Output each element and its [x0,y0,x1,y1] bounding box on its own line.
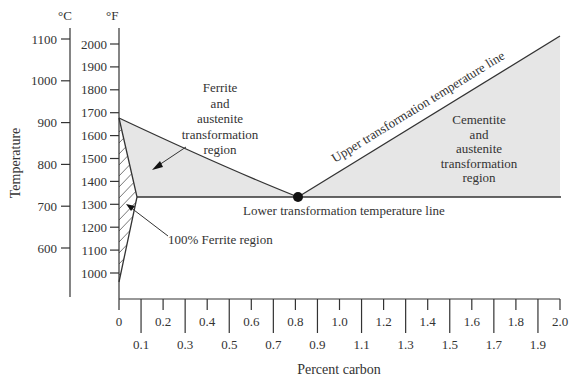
c-tick-label: 1000 [31,73,57,88]
iron-carbon-diagram: 2000190018001700160015001400130012001100… [0,0,578,382]
x-tick-label: 0.2 [155,314,171,329]
ferrite-label-line: transformation [182,127,259,142]
c-tick-label: 600 [38,241,58,256]
lower-line-label: Lower transformation temperature line [243,203,445,218]
y-axis-title: Temperature [8,128,23,199]
f-tick-label: 1800 [81,82,107,97]
f-tick-label: 1200 [81,220,107,235]
fahrenheit-ticks: 2000190018001700160015001400130012001100… [81,37,119,281]
x-tick-label: 0.6 [243,314,260,329]
f-tick-label: 1300 [81,197,107,212]
x-ticks: 00.20.40.60.81.01.21.41.61.82.00.10.30.5… [116,299,568,352]
x-tick-label: 0.5 [221,337,237,352]
hatch-line [119,286,140,308]
x-tick-label: 1.4 [420,314,437,329]
x-tick-label: 1.8 [508,314,524,329]
c-tick-label: 800 [38,157,58,172]
celsius-unit: °C [58,8,72,23]
eutectoid-point [293,192,303,202]
c-tick-label: 900 [38,115,58,130]
x-tick-label: 1.2 [375,314,391,329]
x-tick-label: 1.0 [331,314,347,329]
x-tick-label: 0.7 [265,337,282,352]
hatch-line [119,198,140,220]
x-tick-label: 1.7 [486,337,503,352]
cementite-label-line: Cementite [452,112,506,127]
c-tick-label: 1100 [31,32,57,47]
cementite-label-line: transformation [441,156,518,171]
hatch-line [119,242,140,264]
f-tick-label: 1400 [81,174,107,189]
ferrite-label-line: region [203,142,237,157]
f-tick-label: 1700 [81,105,107,120]
ferrite-region-label: Ferriteandaustenitetransformationregion [182,80,259,157]
f-tick-label: 1900 [81,59,107,74]
x-tick-label: 1.3 [398,337,414,352]
ferrite-label-line: Ferrite [203,80,238,95]
fahrenheit-unit: °F [106,8,118,23]
f-tick-label: 1000 [81,266,107,281]
f-tick-label: 1500 [81,151,107,166]
cementite-label-line: austenite [456,141,502,156]
x-axis-title: Percent carbon [297,362,381,377]
f-tick-label: 2000 [81,37,107,52]
ferrite-label-line: austenite [197,111,243,126]
c-tick-label: 700 [38,199,58,214]
x-tick-label: 0.8 [287,314,303,329]
x-tick-label: 0.9 [309,337,325,352]
cementite-label-line: and [470,127,489,142]
x-tick-label: 0.4 [199,314,216,329]
f-tick-label: 1600 [81,128,107,143]
x-tick-label: 2.0 [552,314,568,329]
pure-ferrite-label: 100% Ferrite region [168,232,273,247]
x-tick-label: 1.9 [530,337,546,352]
x-tick-label: 0.3 [177,337,193,352]
x-tick-label: 1.1 [353,337,369,352]
cementite-label-line: region [462,170,496,185]
x-tick-label: 0.1 [133,337,149,352]
celsius-ticks: 11001000900800700600 [31,32,70,256]
ferrite-label-line: and [211,96,230,111]
f-tick-label: 1100 [81,243,107,258]
x-tick-label: 1.5 [442,337,458,352]
x-tick-label: 1.6 [464,314,481,329]
hatch-line [119,275,140,297]
x-tick-label: 0 [116,314,123,329]
pure-ferrite-arrow [130,207,168,236]
